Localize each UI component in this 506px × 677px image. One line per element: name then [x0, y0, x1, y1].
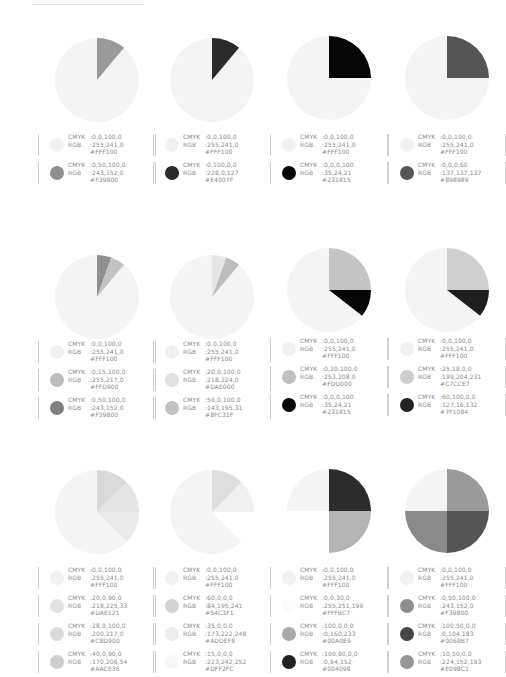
rgb-value: :253,208,0 — [322, 373, 356, 381]
color-swatch-icon — [282, 342, 296, 356]
color-values: CMYK:40,0,90,0 RGB:170,206,54 #AACE36 — [68, 650, 127, 673]
hex-value: #54C3F1 — [205, 609, 234, 617]
bracket-left — [270, 366, 271, 388]
rgb-value: :143,195,31 — [205, 404, 242, 412]
rgb-value: :255,241,0 — [205, 574, 239, 582]
cmyk-value: :0,0,0,100 — [322, 161, 354, 169]
color-swatch-icon — [282, 655, 296, 669]
rgb-label: RGB — [183, 376, 205, 384]
pie-slice — [447, 511, 489, 553]
legend-item: CMYK:0,0,100,0 RGB:255,241,0 #FFF100 — [38, 566, 156, 592]
cmyk-value: :100,0,0,0 — [322, 622, 354, 630]
cmyk-value: :40,0,90,0 — [90, 650, 122, 658]
color-legend: CMYK:0,0,100,0 RGB:255,241,0 #FFF100 CMY… — [153, 340, 271, 424]
cmyk-label: CMYK — [418, 133, 440, 141]
color-swatch-icon — [400, 138, 414, 152]
rgb-value: :35,24,21 — [322, 401, 352, 409]
cmyk-label: CMYK — [418, 566, 440, 574]
legend-item: CMYK:0,50,100,0 RGB:243,152,0 #F39800 — [38, 161, 156, 187]
rgb-label: RGB — [68, 630, 90, 638]
pie-chart — [54, 37, 140, 123]
cmyk-value: :100,80,0,0 — [322, 650, 358, 658]
color-values: CMYK:0,0,100,0 RGB:255,241,0 #FFF100 — [68, 566, 124, 589]
hex-value: #898989 — [440, 176, 469, 184]
rgb-value: :200,217,0 — [90, 630, 124, 638]
rgb-value: :228,0,127 — [205, 169, 239, 177]
legend-item: CMYK:0,15,100,0 RGB:255,217,0 #FFD900 — [38, 368, 156, 394]
color-values: CMYK:60,0,0,0 RGB:84,195,241 #54C3F1 — [183, 594, 242, 617]
color-swatch-icon — [282, 571, 296, 585]
cmyk-label: CMYK — [418, 161, 440, 169]
cmyk-value: :0,0,100,0 — [205, 566, 237, 574]
cmyk-label: CMYK — [300, 337, 322, 345]
hex-value: #FFF100 — [440, 581, 468, 589]
bracket-left — [388, 394, 389, 416]
pie-chart — [286, 35, 372, 121]
cmyk-label: CMYK — [418, 337, 440, 345]
hex-value: #FDD000 — [322, 380, 352, 388]
bracket-left — [270, 338, 271, 360]
rgb-value: :0,160,233 — [322, 630, 356, 638]
color-swatch-icon — [50, 571, 64, 585]
rgb-label: RGB — [183, 169, 205, 177]
rgb-label: RGB — [183, 404, 205, 412]
pie-chart — [54, 254, 140, 340]
hex-value: #F39800 — [440, 609, 468, 617]
color-values: CMYK:15,0,0,0 RGB:223,242,252 #DFF2FC — [183, 650, 246, 673]
color-swatch-icon — [50, 599, 64, 613]
hex-value: #FFF100 — [205, 581, 233, 589]
rgb-label: RGB — [418, 373, 440, 381]
bracket-left — [388, 366, 389, 388]
color-legend: CMYK:0,0,100,0 RGB:255,241,0 #FFF100 CMY… — [270, 337, 388, 421]
hex-value: #FFF100 — [90, 355, 118, 363]
bracket-left — [38, 397, 39, 419]
bracket-left — [388, 338, 389, 360]
rgb-value: :199,204,231 — [440, 373, 481, 381]
cmyk-label: CMYK — [300, 622, 322, 630]
cmyk-value: :60,100,0,0 — [440, 393, 476, 401]
cmyk-value: :100,50,0,0 — [440, 622, 476, 630]
pie-slice — [447, 36, 489, 78]
rgb-label: RGB — [418, 345, 440, 353]
rgb-label: RGB — [418, 401, 440, 409]
pie-slice — [405, 469, 447, 511]
hex-value: #DAE121 — [90, 609, 120, 617]
cmyk-value: :0,0,100,0 — [322, 133, 354, 141]
cmyk-label: CMYK — [300, 365, 322, 373]
color-values: CMYK:20,0,100,0 RGB:218,224,0 #DAE000 — [183, 368, 241, 391]
rgb-value: :223,242,252 — [205, 658, 246, 666]
color-values: CMYK:0,0,0,100 RGB:35,24,21 #231815 — [300, 393, 354, 416]
rgb-value: :224,152,193 — [440, 658, 481, 666]
hex-value: #FFF100 — [205, 148, 233, 156]
rgb-label: RGB — [68, 348, 90, 356]
color-swatch-icon — [400, 571, 414, 585]
rgb-value: :35,24,21 — [322, 169, 352, 177]
legend-item: CMYK:60,100,0,0 RGB:127,16,132 #7F1084 — [388, 393, 506, 419]
cmyk-label: CMYK — [68, 133, 90, 141]
hex-value: #AACE36 — [90, 665, 120, 673]
pie-slice — [405, 511, 447, 553]
pie-slice — [329, 469, 371, 511]
rgb-value: :255,241,0 — [90, 574, 124, 582]
rgb-label: RGB — [300, 602, 322, 610]
rgb-value: :255,241,0 — [440, 345, 474, 353]
color-values: CMYK:28,0,100,0 RGB:200,217,0 #C8D900 — [68, 622, 126, 645]
legend-item: CMYK:0,20,100,0 RGB:253,208,0 #FDD000 — [270, 365, 388, 391]
hex-value: #F39800 — [90, 176, 118, 184]
color-values: CMYK:0,0,0,100 RGB:35,24,21 #231815 — [300, 161, 354, 184]
color-values: CMYK:0,50,100,0 RGB:243,152,0 #F39800 — [68, 161, 126, 184]
bracket-left — [153, 134, 154, 156]
rgb-value: :218,225,33 — [90, 602, 127, 610]
legend-item: CMYK:100,0,0,0 RGB:0,160,233 #00A0E9 — [270, 622, 388, 648]
color-values: CMYK:0,0,100,0 RGB:255,241,0 #FFF100 — [300, 337, 356, 360]
rgb-value: :255,241,0 — [205, 348, 239, 356]
color-values: CMYK:0,0,100,0 RGB:255,241,0 #FFF100 — [418, 133, 474, 156]
cmyk-label: CMYK — [418, 650, 440, 658]
rgb-label: RGB — [300, 169, 322, 177]
color-values: CMYK:0,0,100,0 RGB:255,241,0 #FFF100 — [418, 566, 474, 589]
color-values: CMYK:0,15,100,0 RGB:255,217,0 #FFD900 — [68, 368, 126, 391]
rgb-value: :255,241,0 — [90, 141, 124, 149]
cmyk-label: CMYK — [183, 133, 205, 141]
cmyk-value: :0,0,100,0 — [205, 340, 237, 348]
color-legend: CMYK:0,0,100,0 RGB:255,241,0 #FFF100 CMY… — [270, 566, 388, 677]
